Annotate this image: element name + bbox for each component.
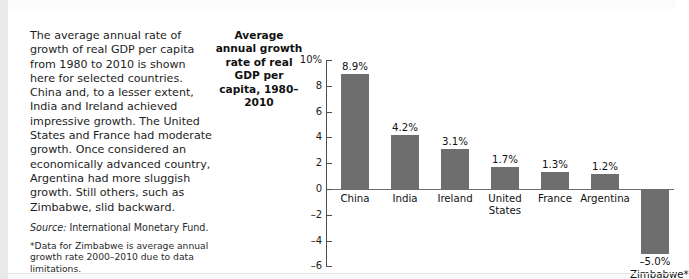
bar-group: 1.7%UnitedStates	[480, 21, 530, 279]
y-tick-label: 2	[280, 158, 322, 168]
caption-text: The average annual rate of growth of rea…	[30, 29, 213, 215]
y-tick-label: –2	[280, 210, 322, 220]
bar-value-label: 1.2%	[580, 161, 630, 172]
y-tick-label: –6	[280, 261, 322, 271]
bar-category-label: India	[380, 193, 430, 205]
panel-bottom-rule	[8, 273, 676, 274]
bar-value-label: 4.2%	[380, 122, 430, 133]
bar-category-label: China	[330, 193, 380, 205]
chart-title: Average annual growth rate of real GDP p…	[213, 29, 305, 109]
y-tick-label: 0	[280, 184, 322, 194]
page-left-gutter	[0, 0, 8, 279]
bar[interactable]	[391, 135, 419, 189]
caption-column: The average annual rate of growth of rea…	[30, 29, 213, 275]
bar[interactable]	[541, 172, 569, 189]
bar-category-line: States	[480, 205, 530, 217]
bar-category-line: United	[480, 193, 530, 205]
bar-value-label: –5.0%	[630, 256, 680, 267]
source-text: International Monetary Fund.	[66, 222, 208, 233]
bar-chart: Average annual growth rate of real GDP p…	[213, 21, 678, 279]
bar-value-label: 1.7%	[480, 154, 530, 165]
bar-group: 3.1%Ireland	[430, 21, 480, 279]
footnote: *Data for Zimbabwe is average annual gro…	[30, 240, 213, 275]
bar-category-line: India	[380, 193, 430, 205]
running-head	[8, 0, 288, 9]
bars-container: 8.9%China4.2%India3.1%Ireland1.7%UnitedS…	[326, 21, 678, 279]
bar-category-line: Argentina	[580, 193, 630, 205]
y-tick-label: –4	[280, 236, 322, 246]
bar[interactable]	[441, 149, 469, 189]
bar-category-label: Ireland	[430, 193, 480, 205]
bar[interactable]	[641, 189, 669, 254]
source-line: Source: International Monetary Fund.	[30, 222, 213, 234]
plot-area: 10%86420–2–4–6 8.9%China4.2%India3.1%Ire…	[308, 21, 678, 279]
bar-category-label: UnitedStates	[480, 193, 530, 216]
bar[interactable]	[591, 174, 619, 189]
y-tick-label: 10%	[280, 55, 322, 65]
y-tick-label: 8	[280, 81, 322, 91]
bar[interactable]	[341, 74, 369, 189]
bar-category-label: Argentina	[580, 193, 630, 205]
bar-group: 8.9%China	[330, 21, 380, 279]
bar[interactable]	[491, 167, 519, 189]
y-tick-label: 4	[280, 132, 322, 142]
bar-group: 1.2%Argentina	[580, 21, 630, 279]
source-label: Source:	[30, 222, 66, 233]
bar-category-line: Ireland	[430, 193, 480, 205]
bar-category-line: France	[530, 193, 580, 205]
figure-panel: The average annual rate of growth of rea…	[8, 9, 676, 274]
bar-value-label: 8.9%	[330, 61, 380, 72]
bar-value-label: 3.1%	[430, 136, 480, 147]
bar-group: 4.2%India	[380, 21, 430, 279]
bar-group: –5.0%Zimbabwe*	[630, 21, 680, 279]
bar-group: 1.3%France	[530, 21, 580, 279]
bar-value-label: 1.3%	[530, 159, 580, 170]
bar-category-label: France	[530, 193, 580, 205]
bar-category-line: China	[330, 193, 380, 205]
y-tick-label: 6	[280, 107, 322, 117]
